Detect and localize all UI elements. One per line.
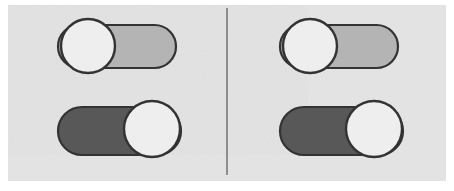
illustration-canvas <box>0 0 454 191</box>
toggle-switch-right-top-graphic <box>272 17 452 93</box>
toggle-knob[interactable] <box>61 19 115 73</box>
toggle-knob[interactable] <box>283 19 337 73</box>
toggle-switch-right-top[interactable] <box>272 17 452 93</box>
toggle-switch-left-top[interactable] <box>50 17 230 93</box>
toggle-knob[interactable] <box>346 101 402 157</box>
toggle-switch-left-bottom[interactable] <box>50 99 230 175</box>
toggle-switch-left-bottom-graphic <box>50 99 230 175</box>
toggle-knob[interactable] <box>124 101 180 157</box>
toggle-switch-left-top-graphic <box>50 17 230 93</box>
toggle-switch-right-bottom-graphic <box>272 99 452 175</box>
toggle-switch-right-bottom[interactable] <box>272 99 452 175</box>
